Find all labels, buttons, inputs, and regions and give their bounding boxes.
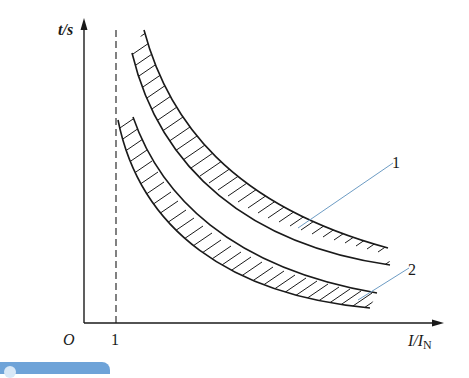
section-tab-decoration [0, 362, 110, 374]
band-2-label: 2 [408, 262, 416, 278]
x-axis-arrow-icon [432, 320, 444, 327]
band-1 [128, 30, 411, 268]
origin-label: O [63, 332, 75, 348]
y-axis-label: t/s [58, 22, 73, 38]
x-axis-label-subscript: N [423, 338, 432, 352]
x-axis [84, 320, 444, 327]
band-1-label: 1 [392, 155, 400, 171]
x-tick-label: 1 [111, 332, 119, 348]
leader-line-1 [298, 163, 393, 228]
leader-line-2 [358, 268, 409, 300]
y-axis-label-text: t/s [58, 21, 73, 38]
band-2 [114, 117, 394, 312]
band-1-inner-curve [132, 53, 390, 265]
x-axis-label: I/IN [408, 333, 432, 351]
band-1-outer-curve [144, 30, 388, 248]
y-axis-arrow-icon [81, 18, 88, 30]
y-axis [81, 18, 88, 323]
x-axis-label-main: I/I [408, 332, 423, 349]
